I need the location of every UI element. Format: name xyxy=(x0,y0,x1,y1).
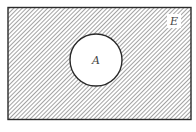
venn-diagram: E A xyxy=(0,0,196,132)
set-a-label: A xyxy=(91,54,100,67)
universal-set-label: E xyxy=(169,15,178,28)
